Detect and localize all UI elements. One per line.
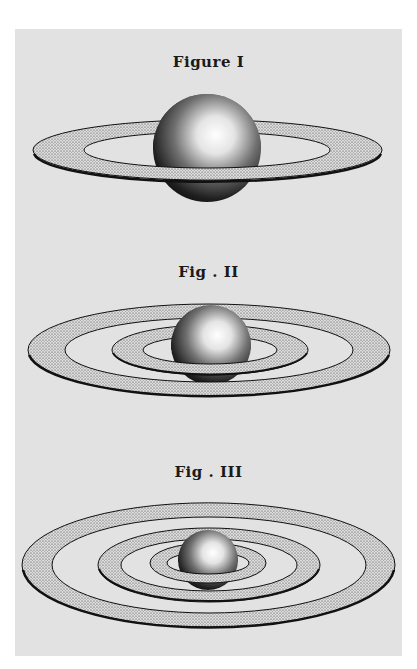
figure-1 [33,94,382,202]
figure-2 [28,304,390,396]
saturn-ring-figures [0,0,417,669]
figure-2-title: Fig . II [0,263,417,281]
figure-1-title: Figure I [0,53,417,71]
figure-3-title: Fig . III [0,463,417,481]
figure-3 [22,503,395,628]
